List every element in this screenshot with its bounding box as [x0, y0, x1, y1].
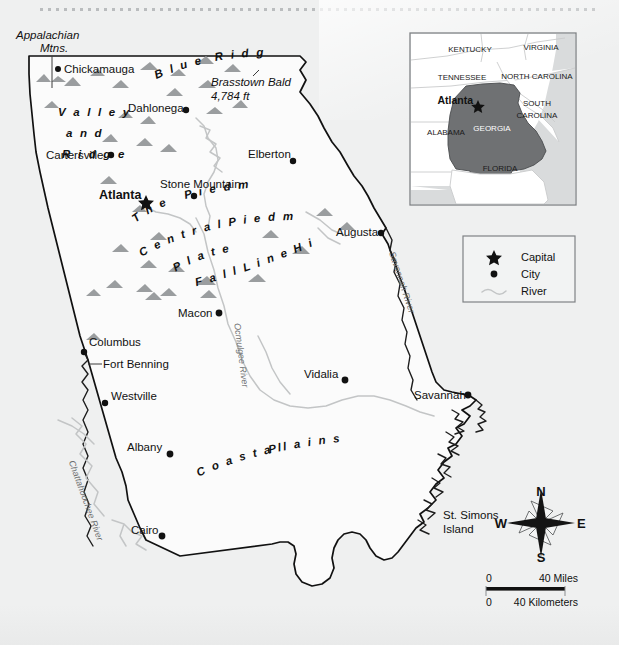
georgia-reference-map: Appalachian Mtns. Brasstown Bald 4,784 f…: [0, 0, 619, 645]
scale-bar-track: [486, 587, 565, 591]
scale-km-max: 40 Kilometers: [514, 596, 578, 608]
scale-km-zero: 0: [486, 596, 492, 608]
scale-bar: 0 40 Miles 0 40 Kilometers: [0, 0, 619, 645]
scale-miles-max: 40 Miles: [539, 572, 578, 584]
scale-miles-zero: 0: [486, 572, 492, 584]
